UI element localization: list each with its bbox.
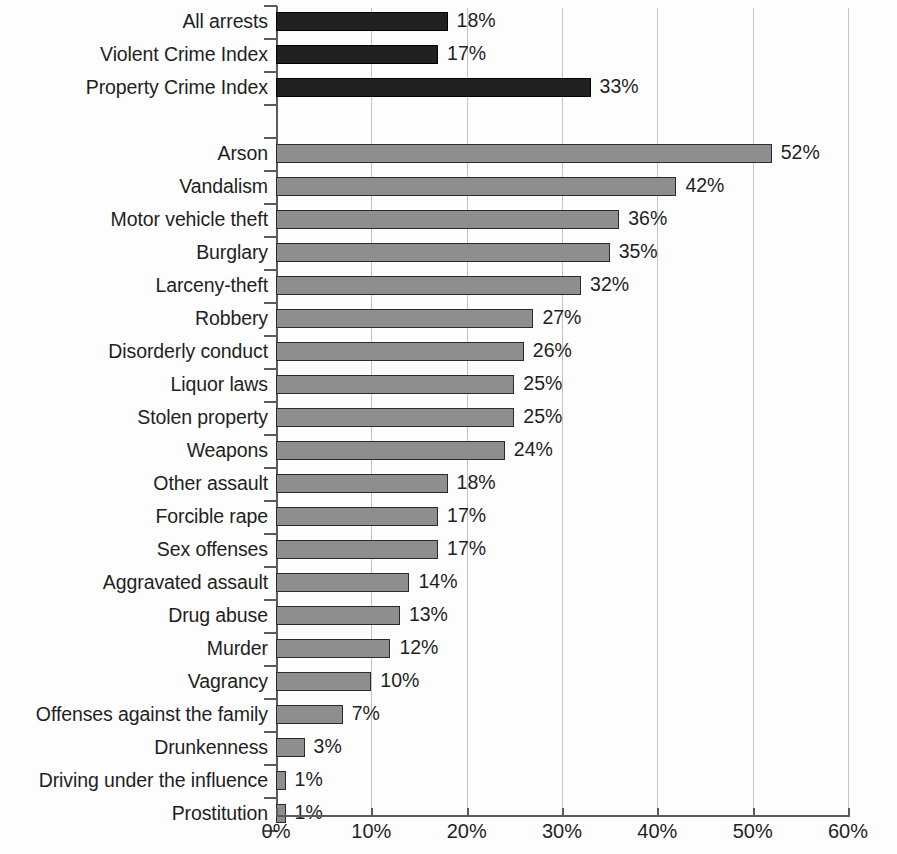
bar-value-label: 35%: [619, 236, 658, 269]
bar-value-label: 25%: [523, 368, 562, 401]
bar-row: Vagrancy10%: [0, 665, 897, 698]
bar[interactable]: [276, 639, 390, 658]
bar-wrapper: [276, 12, 448, 32]
bar-row: Driving under the influence1%: [0, 764, 897, 797]
bar-value-label: 7%: [352, 698, 380, 731]
bar-category-label: Property Crime Index: [86, 71, 268, 104]
bar-wrapper: [276, 342, 524, 362]
x-tick-mark: [371, 808, 373, 817]
bar-value-label: 3%: [314, 731, 342, 764]
bar[interactable]: [276, 771, 286, 790]
bar-wrapper: [276, 309, 533, 329]
bar-category-label: Vagrancy: [188, 665, 268, 698]
bar[interactable]: [276, 309, 533, 328]
x-tick-mark: [753, 808, 755, 817]
x-tick-label: 40%: [617, 820, 697, 843]
bar-row: Motor vehicle theft36%: [0, 203, 897, 236]
bar-wrapper: [276, 78, 591, 98]
y-tick-mark: [264, 104, 277, 106]
bar[interactable]: [276, 78, 591, 97]
bar-category-label: Violent Crime Index: [100, 38, 268, 71]
bar-category-label: Sex offenses: [157, 533, 268, 566]
bar-category-label: Stolen property: [137, 401, 268, 434]
bar-row: Robbery27%: [0, 302, 897, 335]
bar-category-label: Offenses against the family: [36, 698, 268, 731]
bar-category-label: Forcible rape: [155, 500, 268, 533]
x-tick-mark: [467, 808, 469, 817]
bar-category-label: Drug abuse: [168, 599, 268, 632]
bar-wrapper: [276, 375, 514, 395]
bar-value-label: 17%: [447, 38, 486, 71]
bar-value-label: 17%: [447, 500, 486, 533]
bar[interactable]: [276, 342, 524, 361]
bar-category-label: Drunkenness: [154, 731, 268, 764]
bar-row: Arson52%: [0, 137, 897, 170]
bar[interactable]: [276, 408, 514, 427]
bar-row: Disorderly conduct26%: [0, 335, 897, 368]
bar-wrapper: [276, 771, 286, 791]
bar-category-label: Murder: [207, 632, 268, 665]
bar-row: Larceny-theft32%: [0, 269, 897, 302]
bar-value-label: 32%: [590, 269, 629, 302]
x-tick-label: 50%: [713, 820, 793, 843]
bar-row: Murder12%: [0, 632, 897, 665]
bar[interactable]: [276, 705, 343, 724]
bar-wrapper: [276, 573, 409, 593]
bar-row: Forcible rape17%: [0, 500, 897, 533]
bar-value-label: 33%: [600, 71, 639, 104]
x-tick-label: 60%: [808, 820, 888, 843]
bar-wrapper: [276, 672, 371, 692]
bar[interactable]: [276, 45, 438, 64]
bar[interactable]: [276, 540, 438, 559]
bar-category-label: Liquor laws: [170, 368, 268, 401]
bar[interactable]: [276, 276, 581, 295]
bar-value-label: 27%: [542, 302, 581, 335]
bar-value-label: 52%: [781, 137, 820, 170]
bar[interactable]: [276, 12, 448, 31]
bar-value-label: 25%: [523, 401, 562, 434]
bar[interactable]: [276, 210, 619, 229]
bar-row: Weapons24%: [0, 434, 897, 467]
x-tick-label: 20%: [427, 820, 507, 843]
bar-category-label: Motor vehicle theft: [111, 203, 268, 236]
bar-value-label: 24%: [514, 434, 553, 467]
bar-category-label: Other assault: [153, 467, 268, 500]
bar-row: Aggravated assault14%: [0, 566, 897, 599]
bar-category-label: Burglary: [196, 236, 268, 269]
bar[interactable]: [276, 144, 772, 163]
bar-value-label: 12%: [399, 632, 438, 665]
bar[interactable]: [276, 243, 610, 262]
bar-value-label: 17%: [447, 533, 486, 566]
bar-value-label: 18%: [457, 5, 496, 38]
bar-category-label: Vandalism: [179, 170, 268, 203]
x-tick-mark: [562, 808, 564, 817]
bar-category-label: Robbery: [195, 302, 268, 335]
bar-row: Other assault18%: [0, 467, 897, 500]
bar-value-label: 26%: [533, 335, 572, 368]
bar-category-label: Larceny-theft: [155, 269, 268, 302]
bar-value-label: 36%: [628, 203, 667, 236]
bar-row: Drunkenness3%: [0, 731, 897, 764]
bar-value-label: 14%: [418, 566, 457, 599]
bar[interactable]: [276, 672, 371, 691]
plot-area: All arrests18%Violent Crime Index17%Prop…: [0, 0, 897, 854]
bar[interactable]: [276, 507, 438, 526]
x-tick-label: 30%: [522, 820, 602, 843]
bar-wrapper: [276, 441, 505, 461]
bar-wrapper: [276, 474, 448, 494]
bar-row: Violent Crime Index17%: [0, 38, 897, 71]
bar-row: Stolen property25%: [0, 401, 897, 434]
bar[interactable]: [276, 474, 448, 493]
bar[interactable]: [276, 738, 305, 757]
bar[interactable]: [276, 375, 514, 394]
x-tick-label: 0%: [236, 820, 316, 843]
bar-category-label: Arson: [218, 137, 268, 170]
bar-category-label: Weapons: [187, 434, 268, 467]
bar[interactable]: [276, 573, 409, 592]
bar-category-label: Disorderly conduct: [108, 335, 268, 368]
bar-category-label: Driving under the influence: [39, 764, 268, 797]
bar[interactable]: [276, 441, 505, 460]
bar-wrapper: [276, 540, 438, 560]
bar[interactable]: [276, 606, 400, 625]
bar[interactable]: [276, 177, 676, 196]
